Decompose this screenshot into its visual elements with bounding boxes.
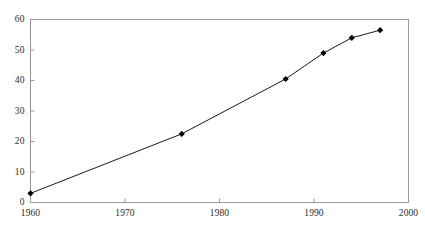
series-markers — [27, 27, 383, 196]
line-chart: 6050403020100 19601970198019902000 — [0, 0, 425, 226]
y-tick-label: 50 — [5, 45, 25, 55]
y-tick-label: 0 — [5, 197, 25, 207]
x-tick-label: 2000 — [392, 208, 425, 218]
y-axis-ticks — [31, 20, 35, 203]
axis-frame — [31, 20, 409, 203]
series-line — [31, 30, 381, 193]
y-tick-label: 20 — [5, 136, 25, 146]
x-tick-label: 1990 — [297, 208, 331, 218]
x-tick-label: 1970 — [108, 208, 142, 218]
y-tick-label: 10 — [5, 167, 25, 177]
y-tick-label: 40 — [5, 75, 25, 85]
x-tick-label: 1960 — [14, 208, 48, 218]
plot-area — [0, 0, 425, 226]
x-tick-label: 1980 — [203, 208, 237, 218]
y-tick-label: 60 — [5, 14, 25, 24]
x-axis-ticks — [31, 199, 409, 203]
y-tick-label: 30 — [5, 106, 25, 116]
